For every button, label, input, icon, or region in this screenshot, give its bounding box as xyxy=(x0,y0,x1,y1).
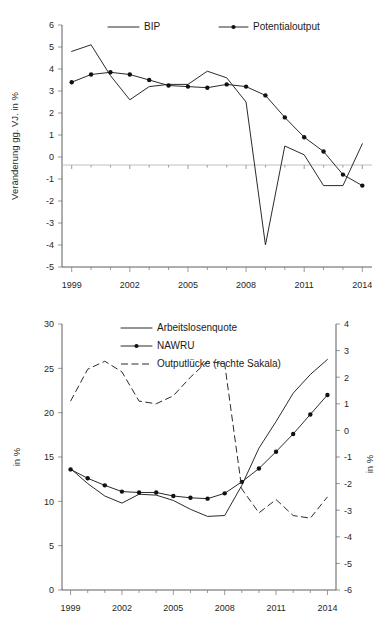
marker-potentialoutput-1999 xyxy=(69,80,73,84)
y-tick-label-left-25: 25 xyxy=(44,364,54,374)
legend-label-potentialoutput: Potentialoutput xyxy=(253,21,320,32)
marker-nawru-2005 xyxy=(171,494,175,498)
y-tick-label-3: 3 xyxy=(49,86,54,96)
y-tick-label-right--6: -6 xyxy=(344,585,352,595)
marker-nawru-2008 xyxy=(222,491,226,495)
chart-top-y-axis-title: Veränderung gg. VJ. in % xyxy=(9,92,20,200)
chart-top-axes: 6543210-1-2-3-4-5 1999200220052008201120… xyxy=(9,20,372,290)
y-tick-label-right-0: 0 xyxy=(344,426,349,436)
marker-nawru-2000 xyxy=(85,476,89,480)
marker-nawru-2003 xyxy=(137,490,141,494)
marker-potentialoutput-2014 xyxy=(360,183,364,187)
x-tick-label-2005: 2005 xyxy=(178,280,198,290)
y-tick-label-left-0: 0 xyxy=(49,585,54,595)
y-tick-label-left-15: 15 xyxy=(44,452,54,462)
marker-nawru-1999 xyxy=(68,467,72,471)
chart-bottom-y-ticks-right: 43210-1-2-3-4-5-6 xyxy=(336,319,352,595)
marker-nawru-2002 xyxy=(120,489,124,493)
chart-top-gdp-potential-output: BIP Potentialoutput 6543210-1-2-3-4-5 19… xyxy=(0,0,390,312)
marker-nawru-2014 xyxy=(325,393,329,397)
y-tick-label-5: 5 xyxy=(49,42,54,52)
marker-potentialoutput-2003 xyxy=(147,78,151,82)
y-tick-label-right--4: -4 xyxy=(344,532,352,542)
y-tick-label-right--5: -5 xyxy=(344,559,352,569)
series-line-outputl-cke-rechte-sakala- xyxy=(71,361,328,518)
y-tick-label-right-4: 4 xyxy=(344,319,349,329)
y-tick-label-4: 4 xyxy=(49,64,54,74)
y-tick-label-right-3: 3 xyxy=(344,346,349,356)
y-tick-label--4: -4 xyxy=(46,240,54,250)
y-tick-label--3: -3 xyxy=(46,218,54,228)
y-tick-label-left-5: 5 xyxy=(49,541,54,551)
legend-label-bip: BIP xyxy=(144,21,160,32)
marker-nawru-2012 xyxy=(291,432,295,436)
x-tick-label-1999: 1999 xyxy=(62,280,82,290)
marker-potentialoutput-2004 xyxy=(166,83,170,87)
series-line-bip xyxy=(72,45,363,245)
x-tick-label-2008: 2008 xyxy=(215,603,235,613)
y-tick-label-right-1: 1 xyxy=(344,399,349,409)
series-line-nawru xyxy=(71,395,328,499)
marker-potentialoutput-2002 xyxy=(128,72,132,76)
x-tick-label-2005: 2005 xyxy=(163,603,183,613)
chart-bottom-svg: Arbeitslosenquote NAWRU Outputlücke (rec… xyxy=(0,312,390,624)
chart-bottom-series-group xyxy=(68,359,329,518)
marker-potentialoutput-2006 xyxy=(205,86,209,90)
y-tick-label-left-30: 30 xyxy=(44,319,54,329)
y-tick-label-2: 2 xyxy=(49,108,54,118)
marker-nawru-2006 xyxy=(188,496,192,500)
y-tick-label-0: 0 xyxy=(49,152,54,162)
x-tick-label-2002: 2002 xyxy=(112,603,132,613)
marker-nawru-2007 xyxy=(205,496,209,500)
chart-bottom-unemployment-nawru: Arbeitslosenquote NAWRU Outputlücke (rec… xyxy=(0,312,390,624)
y-tick-label-1: 1 xyxy=(49,130,54,140)
legend-label-nawru: NAWRU xyxy=(157,340,194,351)
x-tick-label-2002: 2002 xyxy=(120,280,140,290)
legend-marker-potentialoutput xyxy=(231,25,235,29)
marker-potentialoutput-2011 xyxy=(302,135,306,139)
x-tick-label-2011: 2011 xyxy=(295,280,314,290)
chart-top-x-ticks: 199920022005200820112014 xyxy=(62,165,373,290)
y-tick-label-right--1: -1 xyxy=(344,452,352,462)
marker-potentialoutput-2010 xyxy=(283,115,287,119)
marker-potentialoutput-2009 xyxy=(263,93,267,97)
x-tick-label-2014: 2014 xyxy=(317,603,337,613)
x-tick-label-1999: 1999 xyxy=(61,603,81,613)
marker-potentialoutput-2005 xyxy=(186,84,190,88)
chart-bottom-y-ticks-left: 302520151050 xyxy=(44,319,62,595)
chart-top-svg: BIP Potentialoutput 6543210-1-2-3-4-5 19… xyxy=(0,0,390,312)
x-tick-label-2008: 2008 xyxy=(236,280,256,290)
legend-label-arbeitslosenquote: Arbeitslosenquote xyxy=(157,322,237,333)
marker-potentialoutput-2012 xyxy=(321,149,325,153)
marker-nawru-2011 xyxy=(274,449,278,453)
y-tick-label-left-10: 10 xyxy=(44,497,54,507)
marker-potentialoutput-2008 xyxy=(244,84,248,88)
marker-nawru-2013 xyxy=(308,412,312,416)
y-tick-label--5: -5 xyxy=(46,262,54,272)
y-tick-label-right--2: -2 xyxy=(344,479,352,489)
chart-top-y-ticks: 6543210-1-2-3-4-5 xyxy=(46,20,62,272)
marker-nawru-2001 xyxy=(103,483,107,487)
legend-marker-nawru xyxy=(134,344,138,348)
x-tick-label-2011: 2011 xyxy=(266,603,285,613)
marker-potentialoutput-2000 xyxy=(89,72,93,76)
series-line-potentialoutput xyxy=(72,72,363,185)
y-tick-label--1: -1 xyxy=(46,174,54,184)
marker-nawru-2004 xyxy=(154,490,158,494)
marker-nawru-2010 xyxy=(257,466,261,470)
marker-potentialoutput-2007 xyxy=(224,82,228,86)
marker-potentialoutput-2013 xyxy=(341,172,345,176)
y-tick-label-right-2: 2 xyxy=(344,373,349,383)
y-tick-label--2: -2 xyxy=(46,196,54,206)
chart-bottom-x-ticks: 199920022005200820112014 xyxy=(61,590,338,613)
chart-bottom-legend: Arbeitslosenquote NAWRU Outputlücke (rec… xyxy=(121,322,281,369)
y-tick-label-right--3: -3 xyxy=(344,506,352,516)
y-tick-label-6: 6 xyxy=(49,20,54,30)
chart-top-legend: BIP Potentialoutput xyxy=(108,21,320,32)
marker-potentialoutput-2001 xyxy=(108,70,112,74)
chart-bottom-y-axis-title-left: in % xyxy=(11,447,22,466)
x-tick-label-2014: 2014 xyxy=(352,280,372,290)
chart-bottom-y-axis-title-right: in % xyxy=(364,454,375,473)
chart-top-series-group xyxy=(69,45,364,245)
y-tick-label-left-20: 20 xyxy=(44,408,54,418)
